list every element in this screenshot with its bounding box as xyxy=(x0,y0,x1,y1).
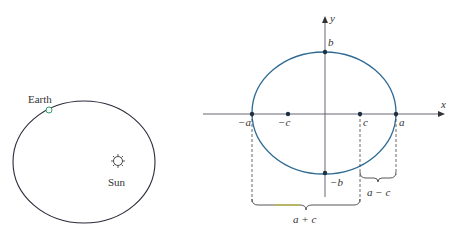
x-axis-arrow-icon xyxy=(438,111,445,117)
point-a xyxy=(394,112,398,116)
y-axis-arrow-icon xyxy=(322,16,328,23)
orbit-ellipse xyxy=(13,101,155,223)
point-neg-b xyxy=(323,171,327,175)
earth-label: Earth xyxy=(28,93,52,105)
label-a-plus-c: a + c xyxy=(293,213,316,225)
point-b xyxy=(323,50,327,54)
label-neg-a: −a xyxy=(238,116,251,128)
label-neg-b: −b xyxy=(330,176,343,188)
sun-icon xyxy=(111,154,125,168)
point-c xyxy=(358,112,362,116)
label-neg-c: −c xyxy=(278,116,290,128)
x-axis-label: x xyxy=(440,98,446,110)
ellipse-orbit-diagram: Earth Sun x y xyxy=(0,0,459,235)
label-c: c xyxy=(363,116,368,128)
y-axis-label: y xyxy=(329,12,335,24)
brace-a-minus-c xyxy=(360,172,396,182)
label-b: b xyxy=(328,36,334,48)
main-ellipse xyxy=(252,52,396,174)
sun-label: Sun xyxy=(108,176,126,188)
label-a: a xyxy=(399,116,405,128)
earth-orbit-figure: Earth Sun xyxy=(13,93,155,223)
earth-icon xyxy=(46,107,52,113)
brace-a-plus-c xyxy=(252,199,360,210)
ellipse-geometry-figure: x y −a −c c a b −b a − c xyxy=(203,12,446,225)
label-a-minus-c: a − c xyxy=(367,186,390,198)
